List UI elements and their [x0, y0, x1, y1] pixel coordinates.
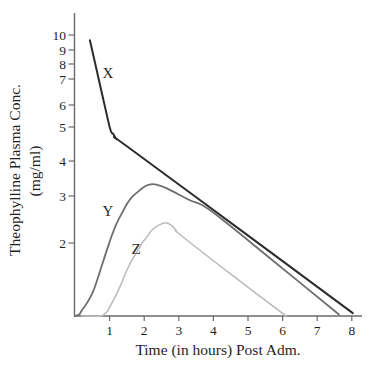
axes	[75, 13, 363, 316]
y-axis-label-line2: (mg/ml)	[26, 146, 44, 197]
curves	[75, 40, 353, 316]
curve-labels: XYZ	[103, 65, 141, 257]
curve-Z	[82, 223, 286, 316]
x-tick-label: 6	[279, 323, 286, 338]
x-tick-label: 7	[314, 323, 321, 338]
y-tick-label: 9	[59, 43, 66, 58]
x-tick-label: 4	[210, 323, 217, 338]
theophylline-plasma-concentration-chart: 1098765432 12345678 XYZ Time (in hours) …	[0, 0, 386, 372]
y-tick-label: 6	[59, 98, 66, 113]
x-axis-ticks: 12345678	[106, 316, 355, 338]
curve-label-X: X	[103, 65, 114, 81]
y-axis-label-line1: Theophylline Plasma Conc.	[6, 84, 23, 256]
y-tick-label: 5	[59, 120, 66, 135]
y-tick-label: 8	[59, 57, 66, 72]
x-tick-label: 2	[141, 323, 148, 338]
x-axis-label: Time (in hours) Post Adm.	[135, 341, 300, 359]
y-tick-label: 2	[59, 236, 66, 251]
axis-lines	[75, 13, 363, 316]
y-tick-label: 3	[59, 189, 66, 204]
x-tick-label: 1	[106, 323, 113, 338]
curve-label-Z: Z	[131, 241, 140, 257]
y-axis-ticks: 1098765432	[53, 28, 75, 251]
y-tick-label: 10	[53, 28, 67, 43]
y-tick-label: 4	[59, 154, 66, 169]
curve-X	[90, 40, 353, 313]
x-tick-label: 5	[245, 323, 252, 338]
x-tick-label: 3	[175, 323, 182, 338]
curve-label-Y: Y	[103, 203, 114, 219]
y-tick-label: 7	[59, 72, 66, 87]
figure-page: 1098765432 12345678 XYZ Time (in hours) …	[0, 0, 386, 372]
x-tick-label: 8	[348, 323, 355, 338]
